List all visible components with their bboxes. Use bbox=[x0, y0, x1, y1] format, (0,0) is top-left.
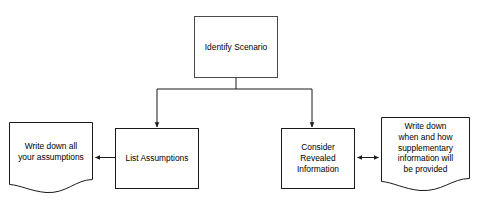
hit-identify-scenario[interactable] bbox=[194, 16, 278, 78]
flowchart-diagram: Identify Scenario List Assumptions Consi… bbox=[0, 0, 478, 206]
hit-consider-revealed-information[interactable] bbox=[281, 128, 355, 189]
hit-list-assumptions[interactable] bbox=[115, 128, 199, 189]
hit-write-down-assumptions[interactable] bbox=[9, 122, 93, 186]
connector-identify-to-branches bbox=[157, 78, 312, 127]
hit-write-down-supplementary[interactable] bbox=[381, 117, 470, 185]
